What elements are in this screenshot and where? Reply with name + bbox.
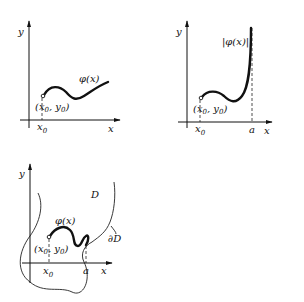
figure-canvas: y x φ(x) (x0, y0) x0 y x |φ(x)| (x0, y0)… <box>0 0 304 302</box>
panel-3: y x φ(x) (x0, y0) x0 a D ∂D <box>18 164 121 293</box>
panel-1: y x φ(x) (x0, y0) x0 <box>17 21 120 135</box>
y-axis-label: y <box>18 168 25 179</box>
a-tick-label: a <box>249 124 255 135</box>
curve-label: φ(x) <box>79 73 100 84</box>
x0-tick-label: x0 <box>37 121 48 135</box>
x-axis-label: x <box>264 125 270 136</box>
solution-curve <box>44 82 108 99</box>
start-point-label: (x0, y0) <box>34 243 69 256</box>
panel-2: y x |φ(x)| (x0, y0) x0 a <box>175 21 272 137</box>
domain-label: D <box>90 189 99 200</box>
y-axis-label: y <box>175 26 182 37</box>
x0-tick-label: x0 <box>43 265 54 279</box>
x0-tick-label: x0 <box>195 123 206 137</box>
start-point-marker <box>41 94 45 98</box>
start-point-marker <box>47 235 51 239</box>
start-point-marker <box>199 96 203 100</box>
curve-label: |φ(x)| <box>222 36 249 48</box>
x-axis-label: x <box>101 265 107 276</box>
boundary-label: ∂D <box>108 233 121 244</box>
y-axis-label: y <box>17 26 24 37</box>
start-point-label: (x0, y0) <box>193 103 228 116</box>
a-tick-label: a <box>83 265 89 276</box>
start-point-label: (x0, y0) <box>35 101 70 114</box>
x-axis-label: x <box>108 123 114 134</box>
domain-boundary <box>20 182 115 293</box>
curve-label: φ(x) <box>55 215 76 226</box>
